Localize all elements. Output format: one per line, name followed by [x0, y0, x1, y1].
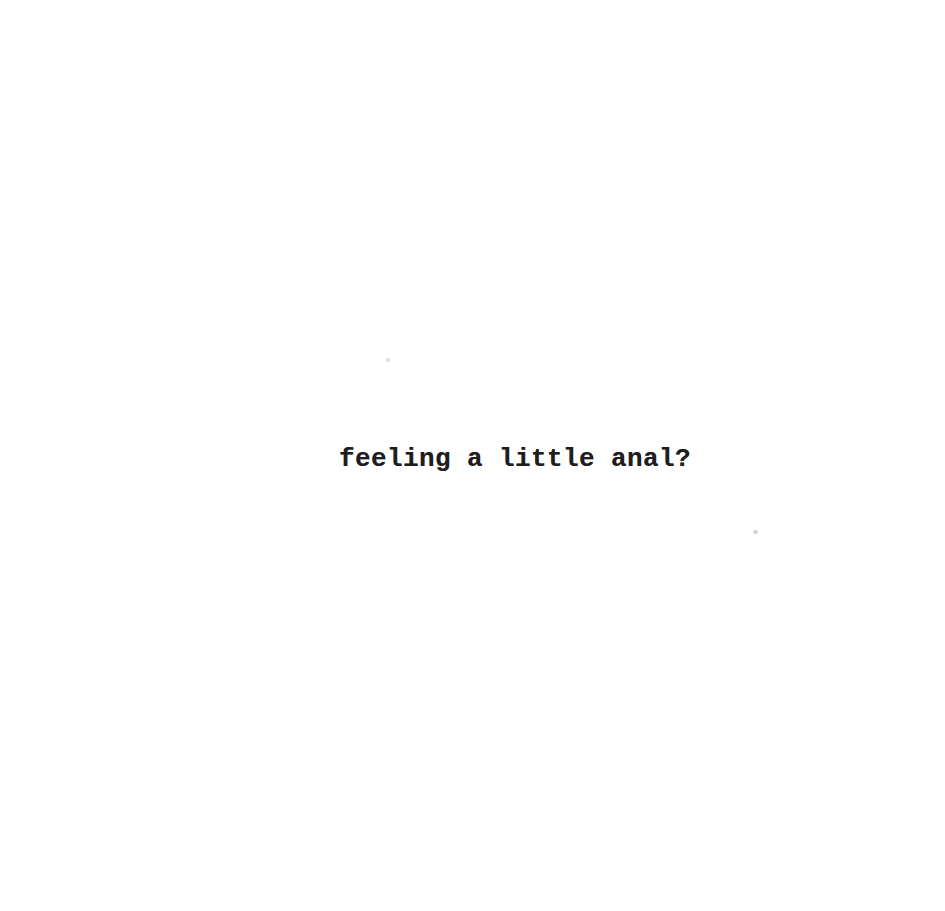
page-caption-text: feeling a little anal?: [339, 444, 691, 474]
scanned-page: feeling a little anal?: [0, 0, 945, 911]
scan-speck: [386, 358, 390, 362]
scan-speck: [753, 530, 758, 534]
